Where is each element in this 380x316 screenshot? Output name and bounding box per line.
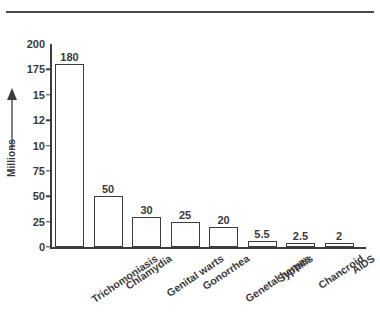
y-axis-tick-mark <box>46 246 50 247</box>
x-axis-line <box>50 247 366 249</box>
y-axis-tick-label: 25 <box>33 216 45 227</box>
y-axis-tick-mark <box>46 94 50 95</box>
y-axis-tick-label: 50 <box>33 191 45 202</box>
bar-value-label: 50 <box>102 183 114 195</box>
y-axis-tick-label: 12 <box>33 115 45 126</box>
y-axis-tick-label: 200 <box>27 39 45 50</box>
bar-value-label: 2.5 <box>293 230 308 242</box>
bar-value-label: 25 <box>179 209 191 221</box>
y-axis-tick-mark <box>46 145 50 146</box>
bar[interactable]: 2.5 <box>286 243 315 247</box>
y-axis-tick-label: 75 <box>33 165 45 176</box>
y-axis-tick-mark <box>46 170 50 171</box>
bar-value-label: 2 <box>336 230 342 242</box>
bar-chart-figure: Millions 2001751512107550250 18050302520… <box>0 0 380 316</box>
y-axis-label-group: Millions <box>2 88 22 198</box>
plot-area: 2001751512107550250 180503025205.52.52 <box>50 18 366 248</box>
bar-value-label: 180 <box>60 51 78 63</box>
bar-value-label: 30 <box>140 204 152 216</box>
bar-value-label: 20 <box>217 214 229 226</box>
bar[interactable]: 30 <box>132 217 161 247</box>
bar-value-label: 5.5 <box>254 228 269 240</box>
bar[interactable]: 20 <box>209 227 238 247</box>
y-axis-tick-label: 10 <box>33 140 45 151</box>
bar[interactable]: 25 <box>171 222 200 247</box>
y-axis-tick-label: 0 <box>39 242 45 253</box>
y-axis-tick-label: 15 <box>33 89 45 100</box>
y-axis-tick-mark <box>46 69 50 70</box>
bar[interactable]: 50 <box>94 196 123 247</box>
y-axis-line <box>50 44 52 248</box>
header-divider <box>6 11 374 13</box>
y-axis-tick-label: 175 <box>27 64 45 75</box>
y-axis-tick-mark <box>46 119 50 120</box>
bar[interactable]: 5.5 <box>248 241 277 247</box>
y-axis-title: Millions <box>4 132 20 184</box>
y-axis-tick-mark <box>46 196 50 197</box>
bar[interactable]: 2 <box>325 243 354 247</box>
bar[interactable]: 180 <box>55 64 84 247</box>
y-axis-tick-mark <box>46 221 50 222</box>
